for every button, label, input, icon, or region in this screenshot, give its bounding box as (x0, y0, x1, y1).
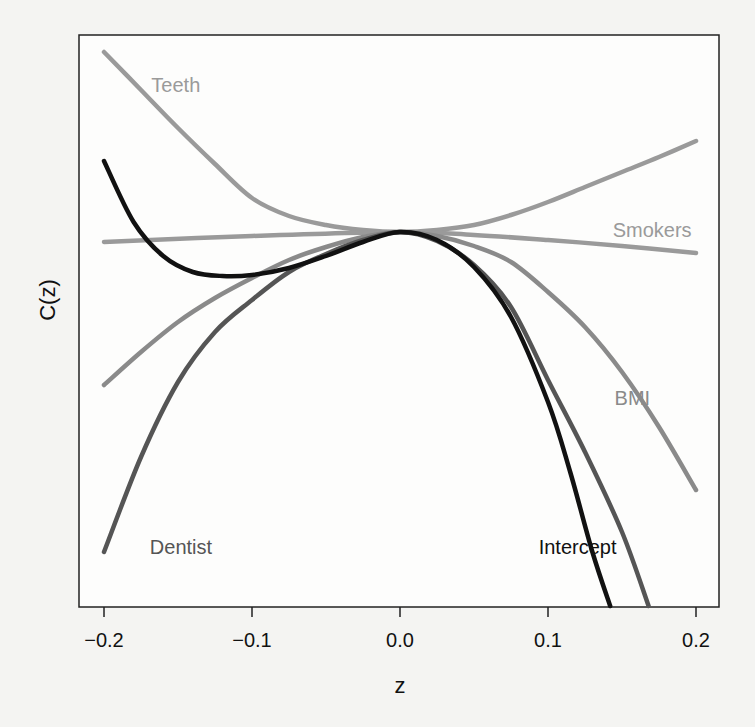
x-axis-ticks (104, 607, 696, 617)
x-tick-label: −0.1 (232, 629, 271, 651)
series-label-bmi: BMI (615, 387, 651, 409)
line-chart: −0.2 −0.1 0.0 0.1 0.2 z C(z) Teeth Smoke… (0, 0, 755, 727)
x-tick-labels: −0.2 −0.1 0.0 0.1 0.2 (84, 629, 710, 651)
series-label-dentist: Dentist (150, 536, 213, 558)
series-label-smokers: Smokers (613, 219, 692, 241)
x-tick-label: 0.0 (386, 629, 414, 651)
x-tick-label: 0.1 (534, 629, 562, 651)
series-label-teeth: Teeth (151, 74, 200, 96)
x-tick-label: 0.2 (682, 629, 710, 651)
x-axis-label: z (395, 673, 406, 698)
series-label-intercept: Intercept (539, 536, 617, 558)
x-tick-label: −0.2 (84, 629, 123, 651)
y-axis-label: C(z) (35, 279, 60, 321)
plot-frame (79, 35, 719, 607)
